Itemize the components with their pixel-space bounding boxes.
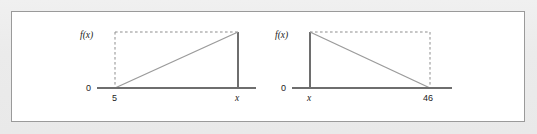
right-chart-density-line <box>310 32 430 88</box>
right-chart-y-axis-label: f(x) <box>275 30 288 41</box>
left-chart-right-tick-label: x <box>234 93 240 103</box>
right-chart-origin-label: 0 <box>281 83 286 93</box>
right-chart-right-tick-label: 46 <box>423 93 433 103</box>
figure-root: f(x) 0 5 x f(x) 0 x 46 <box>0 0 537 134</box>
figure-canvas: f(x) 0 5 x f(x) 0 x 46 <box>0 0 537 134</box>
left-chart-origin-label: 0 <box>86 83 91 93</box>
left-chart-density-line <box>115 32 238 88</box>
left-chart-y-axis-label: f(x) <box>80 30 93 41</box>
right-chart-left-tick-label: x <box>306 93 312 103</box>
left-chart: f(x) 0 5 x <box>80 30 256 103</box>
left-chart-left-tick-label: 5 <box>112 93 117 103</box>
right-chart: f(x) 0 x 46 <box>275 30 452 103</box>
